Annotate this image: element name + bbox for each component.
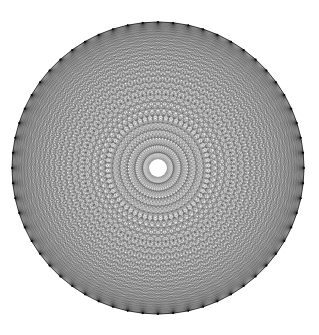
graph-vertex <box>290 226 292 228</box>
graph-vertex <box>71 285 73 287</box>
graph-vertex <box>18 122 20 124</box>
center-hole <box>149 159 167 177</box>
graph-vertex <box>71 49 73 51</box>
graph-vertex <box>300 197 302 199</box>
graph-vertex <box>157 21 159 23</box>
graph-vertex <box>303 167 305 169</box>
graph-vertex <box>202 28 204 30</box>
graph-vertex <box>12 152 14 154</box>
graph-vertex <box>275 253 277 255</box>
graph-vertex <box>39 81 41 83</box>
graph-vertex <box>18 212 20 214</box>
graph-vertex <box>172 312 174 314</box>
center-hole-layer <box>149 159 167 177</box>
graph-vertex <box>31 94 33 96</box>
graph-vertex <box>302 152 304 154</box>
graph-vertex <box>255 276 257 278</box>
graph-vertex <box>187 310 189 312</box>
graph-vertex <box>59 276 61 278</box>
graph-vertex <box>84 41 86 43</box>
graph-vertex <box>290 108 292 110</box>
graph-vertex <box>172 22 174 24</box>
graph-vertex <box>31 240 33 242</box>
graph-vertex <box>284 240 286 242</box>
graph-vertex <box>98 34 100 36</box>
graph-vertex <box>157 313 159 315</box>
graph-vertex <box>255 59 257 61</box>
graph-vertex <box>24 226 26 228</box>
graph-vertex <box>284 94 286 96</box>
graph-vertex <box>202 306 204 308</box>
graph-vertex <box>127 24 129 26</box>
graph-vertex <box>12 182 14 184</box>
graph-vertex <box>59 59 61 61</box>
graph-vertex <box>14 137 16 139</box>
graph-vertex <box>127 310 129 312</box>
graph-vertex <box>39 253 41 255</box>
graph-vertex <box>243 49 245 51</box>
graph-vertex <box>49 69 51 71</box>
graph-vertex <box>302 182 304 184</box>
graph-vertex <box>187 24 189 26</box>
graph-vertex <box>243 285 245 287</box>
graph-vertex <box>296 122 298 124</box>
graph-vertex <box>98 300 100 302</box>
graph-vertex <box>49 265 51 267</box>
graph-vertex <box>266 265 268 267</box>
graph-vertex <box>230 294 232 296</box>
graph-vertex <box>296 212 298 214</box>
graph-vertex <box>142 312 144 314</box>
graph-vertex <box>24 108 26 110</box>
graph-vertex <box>230 41 232 43</box>
graph-vertex <box>216 34 218 36</box>
graph-vertex <box>112 28 114 30</box>
graph-vertex <box>112 306 114 308</box>
graph-vertex <box>275 81 277 83</box>
graph-vertex <box>14 197 16 199</box>
graph-vertex <box>300 137 302 139</box>
graph-vertex <box>142 22 144 24</box>
graph-vertex <box>84 294 86 296</box>
figure-canvas: Complete graph K60 chord diagram A dense… <box>0 0 319 335</box>
graph-vertex <box>266 69 268 71</box>
graph-vertex <box>216 300 218 302</box>
complete-graph-figure: Complete graph K60 chord diagram A dense… <box>0 0 319 335</box>
graph-vertex <box>11 167 13 169</box>
